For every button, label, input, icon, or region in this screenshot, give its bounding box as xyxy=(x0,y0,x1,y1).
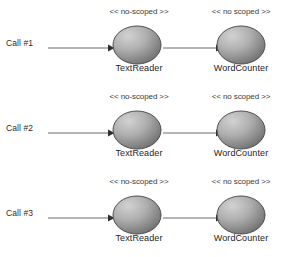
node-label-text-reader: TextReader xyxy=(96,63,182,73)
stereotype-word-counter: << no scoped >> xyxy=(199,92,283,101)
node-label-word-counter: WordCounter xyxy=(199,63,283,73)
stereotype-word-counter: << no scoped >> xyxy=(199,7,283,16)
call-row: Call #3 << no-scoped >> << no scoped >> … xyxy=(0,176,291,256)
node-label-text-reader: TextReader xyxy=(96,148,182,158)
text-reader-node[interactable] xyxy=(113,196,161,234)
call-label: Call #2 xyxy=(6,123,33,133)
component-call-diagram: Call #1 << no-scoped >> << no scoped >> … xyxy=(0,0,291,257)
call-label: Call #1 xyxy=(6,38,33,48)
row-graphics xyxy=(0,6,291,86)
node-label-text-reader: TextReader xyxy=(96,233,182,243)
node-label-word-counter: WordCounter xyxy=(199,233,283,243)
stereotype-text-reader: << no-scoped >> xyxy=(96,177,182,186)
call-row: Call #1 << no-scoped >> << no scoped >> … xyxy=(0,6,291,86)
call-label: Call #3 xyxy=(6,208,33,218)
row-graphics xyxy=(0,176,291,256)
stereotype-text-reader: << no-scoped >> xyxy=(96,7,182,16)
word-counter-node[interactable] xyxy=(217,111,265,149)
stereotype-word-counter: << no scoped >> xyxy=(199,177,283,186)
text-reader-node[interactable] xyxy=(113,111,161,149)
text-reader-node[interactable] xyxy=(113,26,161,64)
node-label-word-counter: WordCounter xyxy=(199,148,283,158)
call-row: Call #2 << no-scoped >> << no scoped >> … xyxy=(0,91,291,171)
stereotype-text-reader: << no-scoped >> xyxy=(96,92,182,101)
word-counter-node[interactable] xyxy=(217,196,265,234)
word-counter-node[interactable] xyxy=(217,26,265,64)
row-graphics xyxy=(0,91,291,171)
